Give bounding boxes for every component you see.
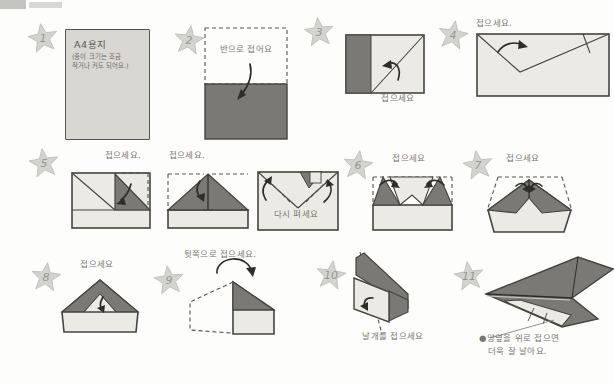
step-5-star-badge: 5 bbox=[27, 146, 61, 180]
origami-instructions-page: 1 A4용지 (종이 크기는 조금 작거나 커도 되어요.) 2 반으로 접어요… bbox=[0, 0, 614, 385]
step-number: 3 bbox=[315, 26, 322, 39]
step-7-label: 접으세요 bbox=[484, 153, 562, 163]
step-6-label: 접으세요 bbox=[370, 153, 448, 163]
step-5-diagram-first bbox=[62, 166, 158, 232]
scan-artifact bbox=[0, 0, 26, 9]
step-10-label: 날개를 접으세요 bbox=[338, 331, 448, 341]
step-6-diagram bbox=[366, 166, 458, 240]
step-8-diagram bbox=[54, 270, 146, 338]
fold-guide-dashes bbox=[205, 28, 287, 84]
step-1-diagram: A4용지 (종이 크기는 조금 작거나 커도 되어요.) bbox=[65, 29, 150, 140]
step-2-diagram bbox=[198, 22, 294, 142]
step-number: 7 bbox=[474, 159, 481, 172]
step-11-diagram-finished-plane bbox=[450, 248, 614, 344]
step-7-diagram bbox=[482, 168, 578, 240]
step-number: 8 bbox=[42, 271, 49, 284]
step-number: 5 bbox=[40, 157, 47, 170]
step-number: 4 bbox=[449, 29, 456, 42]
scan-artifact bbox=[29, 2, 62, 8]
step-3-star-badge: 3 bbox=[302, 15, 336, 49]
step-5-diagram-second bbox=[160, 166, 252, 232]
step-4-diagram bbox=[468, 26, 614, 104]
step-5-diagram-third bbox=[250, 164, 346, 238]
step-11-note-line2: 더욱 잘 날아요. bbox=[488, 346, 547, 356]
paper-size-title: A4용지 bbox=[74, 37, 107, 51]
step-11-note-line1: ●양옆을 위로 접으면 bbox=[479, 333, 559, 343]
fold-guide-dashes bbox=[190, 282, 233, 333]
step-number: 2 bbox=[185, 34, 192, 47]
step-number: 1 bbox=[39, 32, 46, 45]
step-3-label: 접으세요 bbox=[354, 93, 442, 103]
step-number: 6 bbox=[354, 159, 361, 172]
step-9-diagram bbox=[158, 246, 288, 342]
paper-size-note: (종이 크기는 조금 작거나 커도 되어요.) bbox=[72, 53, 129, 70]
step-number: 10 bbox=[324, 269, 338, 282]
step-5-label-second: 접으세요. bbox=[148, 150, 226, 160]
step-4-star-badge: 4 bbox=[436, 18, 470, 52]
step-5-label-third: 다시 펴세요 bbox=[256, 209, 336, 219]
flip-arrow-icon bbox=[217, 259, 251, 273]
step-2-label: 반으로 접어요 bbox=[202, 44, 290, 54]
step-1-star-badge: 1 bbox=[26, 21, 60, 55]
step-8-label: 접으세요 bbox=[58, 259, 136, 269]
step-10-diagram bbox=[342, 248, 438, 342]
